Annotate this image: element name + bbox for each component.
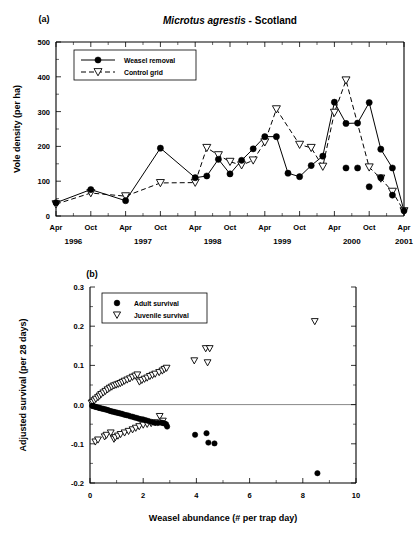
data-point-circle [366,99,372,105]
data-point-triangle [226,158,234,165]
x-tick-label-a: Apr [398,223,411,232]
chart-title-a: Microtus agrestis - Scotland [163,15,297,26]
x-tick-label-a: Apr [119,223,132,232]
data-point-circle [308,162,314,168]
data-point-circle [378,146,384,152]
vole-density-timeseries-chart: (a)Microtus agrestis - Scotland010020030… [0,0,419,270]
title-species: Microtus agrestis [163,15,246,26]
data-point-circle [227,171,233,177]
panel-a-vole-density: (a)Microtus agrestis - Scotland010020030… [0,0,419,270]
x-tick-label-b: 6 [248,491,252,500]
data-point-triangle [156,180,164,187]
data-point-circle [320,153,326,159]
y-tick-label-b: 0.2 [74,322,84,331]
legend-label-juvenile-survival: Juvenile survival [134,312,189,319]
scatter-adult-survival [89,403,320,476]
y-tick-label-a: 0 [46,212,50,221]
data-point-circle [250,146,256,152]
legend-label-adult-survival: Adult survival [134,300,179,307]
data-point-circle [95,57,101,63]
data-point-circle [204,173,210,179]
data-point-circle [239,157,245,163]
data-point-triangle [319,163,327,170]
data-point-circle [206,440,211,445]
data-point-circle [114,300,120,306]
x-tick-label-a: Apr [50,223,63,232]
data-point-triangle [204,360,211,366]
data-point-circle [212,441,217,446]
x-tick-label-a: Oct [224,223,237,232]
data-point-circle [389,165,395,171]
data-point-triangle [191,358,198,364]
series-line-weasel-removal [56,102,404,211]
x-tick-label-a: Oct [154,223,167,232]
data-point-triangle [249,157,257,164]
year-label-a: 1996 [65,237,83,246]
scatter-juvenile-survival [88,319,318,445]
data-point-circle [262,134,268,140]
y-axis-title-b: Adjusted survival (per 28 days) [18,318,28,451]
x-tick-label-a: Apr [189,223,202,232]
data-point-circle [285,170,291,176]
data-point-triangle [307,144,315,151]
series-markers-weasel-removal [53,99,407,214]
year-label-a: 2000 [343,237,361,246]
data-point-triangle [203,144,211,151]
data-point-circle [192,175,198,181]
year-label-a: 2001 [395,237,413,246]
data-point-triangle [342,77,350,84]
panel-a-label: (a) [39,14,50,24]
y-tick-label-a: 500 [37,38,50,47]
y-tick-label-b: 0.3 [74,283,84,292]
data-point-circle [343,165,349,171]
figure-container: (a)Microtus agrestis - Scotland010020030… [0,0,419,539]
legend-label-control-grid: Control grid [124,69,163,77]
data-point-circle [123,198,129,204]
series-line-control-grid [56,80,404,211]
y-tick-label-a: 100 [37,177,50,186]
x-axis-title-b: Weasel abundance (# per trap day) [149,513,297,523]
data-point-triangle [272,106,280,113]
data-point-circle [157,145,163,151]
x-tick-label-b: 10 [352,491,360,500]
y-tick-label-b: -0.1 [71,440,84,449]
data-point-circle [192,432,197,437]
survival-vs-weasel-scatter-chart: (b)-0.2-0.10.00.10.20.30246810Weasel abu… [0,265,419,539]
x-tick-label-a: Apr [328,223,341,232]
x-tick-label-b: 0 [88,491,92,500]
x-tick-label-a: Oct [293,223,306,232]
data-point-circle [355,120,361,126]
data-point-circle [215,156,221,162]
data-point-circle [331,99,337,105]
data-point-circle [366,184,372,190]
data-point-triangle [296,141,304,148]
data-point-circle [389,192,395,198]
x-tick-label-a: Oct [363,223,376,232]
data-point-circle [355,165,361,171]
y-tick-label-a: 400 [37,73,50,82]
y-tick-label-a: 200 [37,142,50,151]
legend-label-weasel-removal: Weasel removal [124,57,175,64]
data-point-circle [273,134,279,140]
x-tick-label-b: 8 [301,491,305,500]
year-label-a: 1998 [204,237,222,246]
panel-b-survival-scatter: (b)-0.2-0.10.00.10.20.30246810Weasel abu… [0,265,419,539]
data-point-triangle [311,319,318,325]
data-point-circle [343,120,349,126]
y-tick-label-b: -0.2 [71,479,84,488]
data-point-circle [378,175,384,181]
data-point-circle [88,186,94,192]
data-point-circle [164,424,169,429]
panel-b-label: (b) [86,269,98,279]
y-tick-label-a: 300 [37,108,50,117]
data-point-circle [204,431,209,436]
x-tick-label-a: Oct [85,223,98,232]
year-label-a: 1999 [273,237,291,246]
x-tick-label-a: Apr [258,223,271,232]
y-axis-title-a: Vole density (per ha) [12,85,22,173]
y-tick-label-b: 0.0 [74,401,84,410]
data-point-circle [401,208,407,214]
data-point-circle [315,471,320,476]
y-tick-label-b: 0.1 [74,361,84,370]
x-tick-label-b: 2 [141,491,145,500]
